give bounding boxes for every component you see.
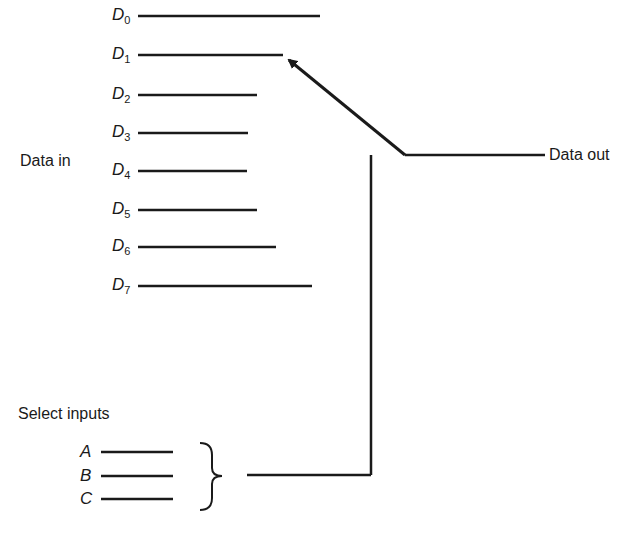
input-label-d5: D5 — [112, 200, 130, 220]
brace — [200, 443, 222, 510]
input-label-d2: D2 — [112, 85, 130, 105]
select-inputs-label: Select inputs — [18, 406, 110, 422]
input-label-d1: D1 — [112, 45, 130, 65]
select-label-a: A — [80, 443, 91, 460]
switch-arm — [289, 60, 405, 155]
select-label-c: C — [80, 490, 92, 507]
input-label-d6: D6 — [112, 237, 130, 257]
select-label-b: B — [80, 467, 91, 484]
data-in-label: Data in — [20, 153, 71, 169]
input-label-d0: D0 — [112, 6, 130, 26]
mux-diagram-lines — [0, 0, 635, 538]
data-out-label: Data out — [549, 147, 609, 163]
input-label-d3: D3 — [112, 123, 130, 143]
input-label-d7: D7 — [112, 276, 130, 296]
input-label-d4: D4 — [112, 161, 130, 181]
